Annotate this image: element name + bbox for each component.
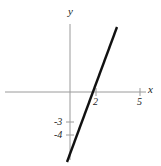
x-tick-label-2: 2 bbox=[93, 97, 98, 107]
x-tick-label-5: 5 bbox=[137, 97, 142, 107]
y-tick-label-minus-4: -4 bbox=[54, 130, 62, 140]
y-tick-label-minus-3: -3 bbox=[54, 117, 62, 127]
plotted-line bbox=[67, 27, 117, 162]
coordinate-plot bbox=[0, 0, 161, 166]
graph-figure: y x 2 5 -3 -4 bbox=[0, 0, 161, 166]
y-axis-label: y bbox=[68, 6, 73, 17]
x-axis-label: x bbox=[148, 84, 153, 95]
